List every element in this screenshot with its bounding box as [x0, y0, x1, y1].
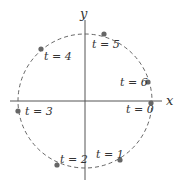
point-label: t = 6 — [120, 76, 148, 89]
point-marker — [101, 31, 106, 36]
point-label: t = 5 — [92, 38, 120, 51]
point-marker — [15, 108, 20, 113]
point-marker — [54, 162, 59, 167]
unit-circle-diagram: x y t = 0t = 1t = 2t = 3t = 4t = 5t = 6 — [0, 0, 181, 185]
x-axis-label: x — [166, 93, 174, 108]
point-label: t = 3 — [25, 105, 53, 118]
point-label: t = 1 — [96, 148, 124, 161]
y-axis-label: y — [79, 6, 88, 21]
point-label: t = 0 — [126, 103, 154, 116]
point-marker — [38, 46, 43, 51]
point-label: t = 2 — [60, 153, 88, 166]
point-label: t = 4 — [44, 50, 72, 63]
